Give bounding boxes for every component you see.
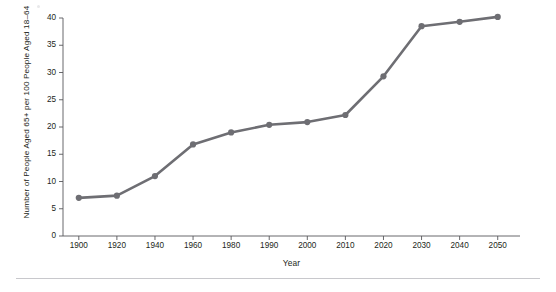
axis-lines <box>63 18 520 236</box>
chart-plot-svg <box>0 0 556 276</box>
line-chart-figure: Number of People Aged 65+ per 100 People… <box>0 0 556 276</box>
footer-rule <box>16 278 540 279</box>
y-axis-ticks <box>59 18 63 236</box>
x-axis-ticks <box>79 236 498 240</box>
data-series-line <box>79 17 498 198</box>
data-point-markers <box>76 14 501 201</box>
chart-page: Number of People Aged 65+ per 100 People… <box>0 0 556 292</box>
x-axis-title: Year <box>63 258 520 268</box>
